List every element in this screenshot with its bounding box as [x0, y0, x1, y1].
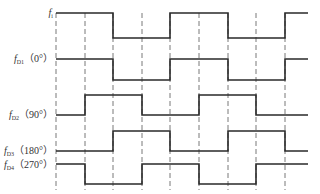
- label-fD3: fD3（180°）: [4, 146, 53, 159]
- waveforms: [56, 13, 308, 184]
- waveform-fD2: [56, 95, 308, 115]
- waveform-fD1: [56, 59, 308, 80]
- waveform-fD4: [56, 164, 308, 184]
- label-fD2: fD2（90°）: [9, 110, 53, 123]
- label-fD1: fD1（0°）: [14, 54, 53, 67]
- label-fD4: fD4（270°）: [4, 160, 53, 173]
- waveform-fi: [56, 13, 308, 38]
- label-fi: fi: [49, 8, 53, 21]
- waveform-fD3: [56, 131, 308, 151]
